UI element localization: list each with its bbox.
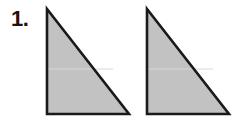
figure-container xyxy=(0,0,237,122)
triangle-right xyxy=(147,9,229,114)
worksheet-page: 1. xyxy=(0,0,237,122)
triangle-left xyxy=(47,9,129,114)
triangles-diagram xyxy=(0,0,237,122)
